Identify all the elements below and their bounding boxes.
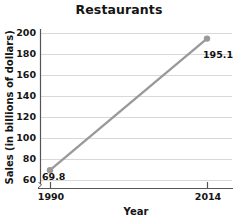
data-point-marker [204,35,210,41]
y-tick-label: 80 [2,154,36,164]
y-tick-label: 120 [2,112,36,122]
y-tick-label: 100 [2,133,36,143]
x-axis-line [38,182,233,189]
y-tick-label: 60 [2,175,36,185]
x-tick-label: 2014 [188,192,228,202]
data-point-label: 195.1 [203,50,233,60]
chart-container: Restaurants Sales (in billions of dollar… [0,0,238,224]
data-point-label: 69.8 [42,172,65,182]
data-series-line [47,35,210,173]
y-tick-label: 140 [2,91,36,101]
x-tick-label: 1990 [31,192,71,202]
y-tick-label: 180 [2,49,36,59]
y-tick-label: 200 [2,28,36,38]
y-tick-label: 160 [2,70,36,80]
